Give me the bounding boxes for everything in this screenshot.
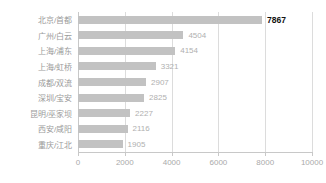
x-axis-tick-label: 10000 xyxy=(301,158,323,167)
bar-chart: 北京/首都广州/白云上海/浦东上海/虹桥成都/双流深圳/宝安昆明/巫家坝西安/咸… xyxy=(0,0,326,183)
bar xyxy=(78,31,183,39)
bar-value-label: 7867 xyxy=(267,15,286,25)
bar-value-label: 3321 xyxy=(161,62,179,71)
bar-row: 2825 xyxy=(78,90,312,106)
bar xyxy=(78,94,144,102)
bar-row: 1905 xyxy=(78,137,312,153)
bar-row: 2227 xyxy=(78,105,312,121)
bar-value-label: 2116 xyxy=(133,124,150,133)
category-label: 深圳/宝安 xyxy=(0,90,76,106)
x-axis-tick-labels: 0200040006000800010000 xyxy=(78,158,312,172)
x-axis-tick xyxy=(218,152,219,156)
bar-value-label: 2227 xyxy=(135,109,153,118)
x-axis-tick-label: 0 xyxy=(76,158,80,167)
category-axis-labels: 北京/首都广州/白云上海/浦东上海/虹桥成都/双流深圳/宝安昆明/巫家坝西安/咸… xyxy=(0,12,76,152)
category-label: 昆明/巫家坝 xyxy=(0,105,76,121)
category-label: 北京/首都 xyxy=(0,12,76,28)
plot-area: 786745044154332129072825222721161905 xyxy=(78,12,312,152)
bar xyxy=(78,78,146,86)
gridline xyxy=(312,12,313,152)
bar-value-label: 2825 xyxy=(149,93,167,102)
bar xyxy=(78,109,130,117)
category-label: 西安/咸阳 xyxy=(0,121,76,137)
x-axis-tick xyxy=(172,152,173,156)
bar-row: 2116 xyxy=(78,121,312,137)
category-label: 成都/双流 xyxy=(0,74,76,90)
bar-value-label: 2907 xyxy=(151,78,169,87)
category-label: 上海/虹桥 xyxy=(0,59,76,75)
bar xyxy=(78,125,128,133)
x-axis-tick-label: 6000 xyxy=(209,158,227,167)
bar-row: 4154 xyxy=(78,43,312,59)
x-axis-tick xyxy=(312,152,313,156)
bar-row: 2907 xyxy=(78,74,312,90)
category-label: 广州/白云 xyxy=(0,28,76,44)
x-axis-tick-label: 2000 xyxy=(116,158,134,167)
bar xyxy=(78,47,175,55)
x-axis-tick xyxy=(78,152,79,156)
bar-series: 786745044154332129072825222721161905 xyxy=(78,12,312,152)
x-axis-tick-label: 8000 xyxy=(256,158,274,167)
bar-row: 3321 xyxy=(78,59,312,75)
bar xyxy=(78,140,123,148)
bar-value-label: 4154 xyxy=(180,46,198,55)
bar xyxy=(78,16,262,24)
category-label: 上海/浦东 xyxy=(0,43,76,59)
x-axis-tick-label: 4000 xyxy=(163,158,181,167)
x-axis-ticks xyxy=(78,152,312,156)
bar-value-label: 4504 xyxy=(188,31,206,40)
bar-row: 7867 xyxy=(78,12,312,28)
category-label: 重庆/江北 xyxy=(0,137,76,153)
x-axis-tick xyxy=(125,152,126,156)
bar-value-label: 1905 xyxy=(128,140,146,149)
x-axis-tick xyxy=(265,152,266,156)
bar-row: 4504 xyxy=(78,28,312,44)
bar xyxy=(78,62,156,70)
